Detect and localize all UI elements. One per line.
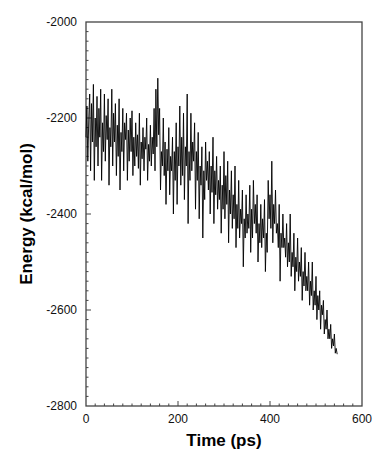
y-tick-label: -2600 [46, 303, 77, 317]
x-tick-label: 400 [260, 412, 280, 426]
y-axis-tick-labels: -2000-2200-2400-2600-2800 [46, 15, 77, 413]
y-axis-title: Energy (kcal/mol) [17, 143, 36, 285]
x-tick-label: 600 [352, 412, 372, 426]
x-tick-label: 0 [83, 412, 90, 426]
x-tick-label: 200 [168, 412, 188, 426]
y-tick-label: -2400 [46, 207, 77, 221]
y-tick-label: -2200 [46, 111, 77, 125]
plot-area [86, 22, 362, 406]
x-axis-title: Time (ps) [186, 431, 261, 450]
y-tick-label: -2000 [46, 15, 77, 29]
x-axis-tick-labels: 0200400600 [83, 412, 373, 426]
plot-frame [86, 22, 362, 406]
y-tick-label: -2800 [46, 399, 77, 413]
energy-vs-time-chart: -2000-2200-2400-2600-2800 0200400600 Tim… [0, 0, 387, 462]
